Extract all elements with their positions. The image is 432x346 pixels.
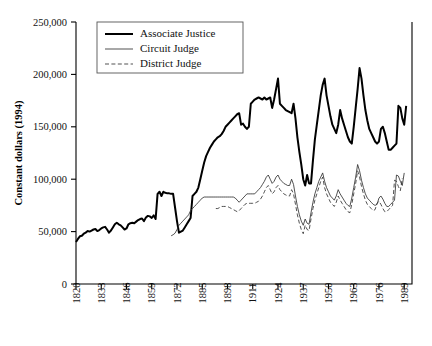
judicial-salary-line-chart: Constant dollars (1994) 050,000100,00015… (0, 0, 432, 346)
y-axis-tick-label: 100,000 (33, 174, 67, 185)
x-axis-ticks: 1820183318461859187218851898191119241937… (71, 282, 410, 304)
x-axis-tick-label: 1859 (146, 283, 157, 304)
x-axis-tick-label: 1898 (222, 283, 233, 304)
x-axis-tick-label: 1872 (172, 283, 183, 304)
y-axis-tick-label: 200,000 (33, 69, 67, 80)
x-axis-tick-label: 1924 (273, 282, 284, 304)
x-axis-tick-label: 1976 (374, 283, 385, 304)
series-line-circuit-judge (171, 165, 404, 236)
chart-legend: Associate JusticeCircuit JudgeDistrict J… (97, 22, 243, 73)
x-axis-tick-label: 1911 (247, 283, 258, 304)
y-axis-tick-label: 0 (62, 279, 67, 290)
x-axis-tick-label: 1885 (197, 283, 208, 304)
x-axis-tick-label: 1833 (96, 283, 107, 304)
legend-label-district-judge: District Judge (140, 57, 202, 69)
x-axis-tick-label: 1820 (71, 283, 82, 304)
x-axis-tick-label: 1846 (121, 283, 132, 304)
y-axis-title: Constant dollars (1994) (13, 100, 25, 206)
y-axis-tick-label: 50,000 (38, 226, 67, 237)
chart-container: Constant dollars (1994) 050,000100,00015… (0, 0, 432, 346)
y-axis-ticks: 050,000100,000150,000200,000250,000 (33, 17, 76, 290)
data-series-group (76, 68, 406, 242)
legend-label-circuit-judge: Circuit Judge (140, 42, 199, 54)
y-axis-tick-label: 150,000 (33, 121, 67, 132)
x-axis-tick-label: 1989 (399, 283, 410, 304)
x-axis-tick-label: 1963 (348, 283, 359, 304)
x-axis-tick-label: 1937 (298, 283, 309, 304)
legend-label-associate-justice: Associate Justice (140, 27, 216, 39)
y-axis-tick-label: 250,000 (33, 17, 67, 28)
y-axis-title-group: Constant dollars (1994) (13, 100, 25, 206)
x-axis-tick-label: 1950 (323, 283, 334, 304)
series-line-associate-justice (76, 68, 406, 242)
